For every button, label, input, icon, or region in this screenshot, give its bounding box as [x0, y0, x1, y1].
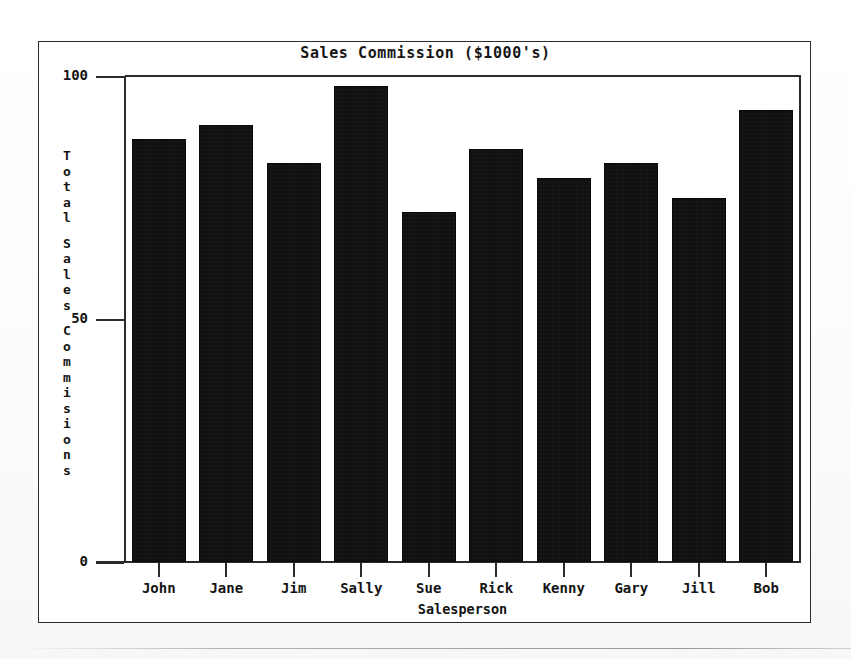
- bar-gary: [604, 163, 658, 562]
- y-axis-label-char: o: [56, 164, 78, 180]
- y-axis-label-char: i: [56, 416, 78, 432]
- x-axis-tick-label-john: John: [125, 580, 193, 596]
- x-axis-tick-label-kenny: Kenny: [530, 580, 598, 596]
- scan-artifact-line: [18, 648, 851, 649]
- bar-jane: [199, 125, 253, 562]
- bar-rick: [469, 149, 523, 562]
- y-axis-label-char: a: [56, 195, 78, 211]
- y-axis-tick-mark: [96, 319, 124, 321]
- x-axis-tick-label-jane: Jane: [193, 580, 261, 596]
- x-axis-tick-label-jill: Jill: [665, 580, 733, 596]
- bar-sally: [334, 86, 388, 562]
- y-axis-label-char: s: [56, 401, 78, 417]
- x-axis-tick-mark: [360, 563, 362, 577]
- y-axis-line: [124, 76, 126, 563]
- y-axis-tick-label: 50: [71, 310, 88, 326]
- bar-bob: [739, 110, 793, 562]
- x-axis-tick-mark: [158, 563, 160, 577]
- plot-right-border: [799, 75, 801, 563]
- y-axis-label-char: m: [56, 354, 78, 370]
- x-axis-tick-label-bob: Bob: [733, 580, 801, 596]
- x-axis-tick-mark: [225, 563, 227, 577]
- y-axis-label-char: t: [56, 179, 78, 195]
- x-axis-tick-label-rick: Rick: [463, 580, 531, 596]
- x-axis-tick-mark: [630, 563, 632, 577]
- bar-john: [132, 139, 186, 562]
- x-axis-tick-mark: [765, 563, 767, 577]
- bar-sue: [402, 212, 456, 562]
- y-axis-tick-mark: [96, 76, 124, 78]
- y-axis-label-char: [56, 226, 78, 236]
- y-axis-tick-label: 100: [63, 67, 88, 83]
- y-axis-tick-mark: [96, 562, 124, 564]
- bar-jill: [672, 198, 726, 563]
- y-axis-label-char: T: [56, 148, 78, 164]
- x-axis-tick-label-gary: Gary: [598, 580, 666, 596]
- y-axis-label-char: a: [56, 251, 78, 267]
- x-axis-tick-mark: [293, 563, 295, 577]
- y-axis-label-char: o: [56, 339, 78, 355]
- plot-top-border: [125, 75, 801, 77]
- y-axis-label-char: i: [56, 385, 78, 401]
- bar-jim: [267, 163, 321, 562]
- x-axis-tick-label-jim: Jim: [260, 580, 328, 596]
- y-axis-label-char: s: [56, 463, 78, 479]
- y-axis-label-char: S: [56, 236, 78, 252]
- y-axis-label-char: n: [56, 447, 78, 463]
- y-axis-label-char: e: [56, 282, 78, 298]
- y-axis-label-char: m: [56, 370, 78, 386]
- y-axis-label-char: l: [56, 267, 78, 283]
- x-axis-tick-label-sally: Sally: [328, 580, 396, 596]
- x-axis-tick-mark: [563, 563, 565, 577]
- bar-kenny: [537, 178, 591, 562]
- y-axis-label-char: l: [56, 210, 78, 226]
- x-axis-tick-mark: [428, 563, 430, 577]
- y-axis-label-char: o: [56, 432, 78, 448]
- page-title: Sales Commission ($1000's): [0, 44, 851, 62]
- y-axis-tick-label: 0: [80, 553, 88, 569]
- x-axis-tick-mark: [698, 563, 700, 577]
- x-axis-tick-label-sue: Sue: [395, 580, 463, 596]
- x-axis-label: Salesperson: [125, 601, 800, 617]
- x-axis-tick-mark: [495, 563, 497, 577]
